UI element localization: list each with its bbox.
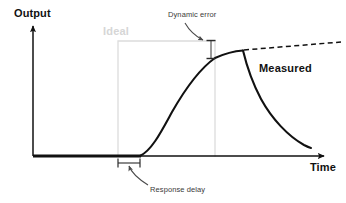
ideal-step-curve — [118, 41, 215, 156]
response-delay-leader-arrow — [129, 166, 148, 185]
x-axis-label: Time — [310, 162, 336, 173]
y-axis-label: Output — [14, 8, 51, 19]
measured-series-label: Measured — [259, 63, 312, 74]
response-diagram — [0, 0, 346, 203]
ideal-extrapolation-dashed-line — [244, 42, 341, 50]
dynamic-error-annotation-label: Dynamic error — [168, 11, 216, 19]
response-delay-annotation-label: Response delay — [150, 186, 205, 194]
diagram-canvas: Output Time Measured Ideal Dynamic error… — [0, 0, 346, 203]
dynamic-error-bar — [207, 41, 216, 59]
measured-rise-curve — [140, 51, 243, 157]
ideal-series-label: Ideal — [103, 26, 129, 37]
axis-lines — [33, 26, 324, 156]
dynamic-error-leader-arrow — [185, 23, 203, 40]
